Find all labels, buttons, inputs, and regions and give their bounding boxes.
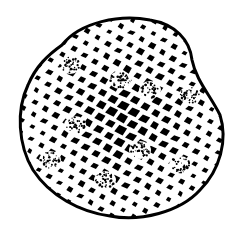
- stipple-dot: [66, 126, 68, 128]
- stipple-dot: [75, 68, 77, 70]
- stipple-dot: [120, 75, 122, 77]
- lumen-cell: [97, 11, 103, 16]
- lumen-cell: [74, 22, 80, 27]
- lumen-cell: [9, 112, 14, 116]
- stipple-dot: [141, 91, 143, 93]
- stipple-dot: [78, 131, 80, 133]
- stipple-dot: [70, 68, 72, 70]
- lumen-cell: [202, 64, 208, 68]
- stipple-dot: [180, 171, 182, 173]
- stipple-dot: [196, 92, 198, 94]
- stipple-dot: [73, 62, 75, 64]
- lumen-cell: [13, 179, 19, 183]
- lumen-cell: [18, 26, 23, 31]
- lumen-cell: [218, 34, 222, 39]
- stipple-dot: [148, 152, 150, 154]
- stipple-dot: [70, 64, 72, 66]
- stipple-dot: [75, 60, 76, 61]
- stipple-dot: [103, 174, 105, 176]
- stipple-dot: [142, 87, 145, 90]
- lumen-cell: [227, 53, 231, 56]
- stipple-dot: [189, 102, 191, 104]
- stipple-dot: [142, 143, 143, 144]
- lumen-cell: [221, 206, 226, 209]
- stipple-dot: [99, 183, 101, 185]
- lumen-cell: [215, 47, 222, 51]
- pollen-illustration: [0, 0, 238, 236]
- stipple-dot: [109, 79, 112, 82]
- stipple-dot: [105, 184, 107, 186]
- stipple-dot: [184, 166, 186, 168]
- lumen-cell: [7, 228, 12, 233]
- pollen-grain: [0, 0, 238, 236]
- lumen-cell: [64, 16, 69, 20]
- lumen-cell: [185, 26, 190, 31]
- stipple-dot: [96, 179, 97, 180]
- lumen-cell: [208, 15, 213, 20]
- stipple-dot: [150, 84, 152, 86]
- stipple-dot: [143, 156, 144, 157]
- stipple-dot: [97, 174, 98, 175]
- stipple-dot: [73, 126, 75, 128]
- stipple-dot: [72, 118, 73, 119]
- stipple-dot: [97, 175, 98, 176]
- lumen-cell: [53, 10, 58, 14]
- stipple-dot: [152, 83, 153, 84]
- stipple-dot: [43, 158, 44, 159]
- lumen-cell: [9, 216, 14, 220]
- lumen-cell: [15, 155, 21, 159]
- stipple-dot: [63, 67, 64, 68]
- stipple-dot: [186, 165, 188, 167]
- lumen-cell: [37, 51, 43, 57]
- lumen-cell: [221, 193, 228, 199]
- stipple-dot: [102, 182, 104, 184]
- stipple-dot: [137, 150, 139, 152]
- lumen-cell: [20, 210, 25, 214]
- stipple-dot: [47, 160, 50, 163]
- stipple-dot: [175, 161, 177, 163]
- stipple-dot: [184, 98, 186, 100]
- lumen-cell: [30, 21, 35, 25]
- stipple-dot: [190, 90, 192, 92]
- stipple-dot: [188, 89, 189, 90]
- lumen-cell: [140, 220, 147, 225]
- stipple-dot: [146, 154, 148, 156]
- stipple-dot: [198, 94, 200, 96]
- stipple-dot: [48, 156, 50, 158]
- stipple-dot: [109, 185, 112, 188]
- stipple-dot: [46, 152, 48, 154]
- stipple-dot: [110, 77, 111, 78]
- lumen-cell: [199, 205, 204, 209]
- stipple-dot: [107, 178, 109, 180]
- lumen-cell: [33, 192, 40, 196]
- lumen-cell: [25, 69, 31, 73]
- stipple-dot: [182, 170, 183, 171]
- stipple-dot: [69, 72, 71, 74]
- lumen-cell: [194, 33, 201, 37]
- lumen-cell: [222, 90, 228, 94]
- stipple-dot: [72, 63, 74, 65]
- lumen-cell: [42, 211, 48, 215]
- stipple-dot: [191, 95, 193, 97]
- stipple-dot: [72, 121, 75, 124]
- lumen-cell: [27, 44, 33, 50]
- stipple-dot: [78, 67, 80, 69]
- stipple-dot: [149, 89, 151, 91]
- lumen-cell: [50, 33, 57, 38]
- stipple-dot: [43, 156, 44, 157]
- stipple-dot: [54, 159, 56, 161]
- stipple-dot: [186, 93, 188, 95]
- stipple-dot: [122, 86, 124, 88]
- lumen-cell: [220, 218, 224, 222]
- stipple-dot: [76, 127, 78, 129]
- stipple-dot: [177, 169, 179, 171]
- lumen-cell: [10, 99, 15, 103]
- lumen-cell: [26, 57, 32, 61]
- lumen-cell: [76, 10, 80, 14]
- lumen-cell: [64, 211, 70, 216]
- lumen-cell: [119, 12, 125, 17]
- stipple-dot: [120, 82, 122, 84]
- lumen-cell: [31, 9, 37, 13]
- stipple-dot: [44, 159, 45, 160]
- lumen-cell: [13, 75, 19, 79]
